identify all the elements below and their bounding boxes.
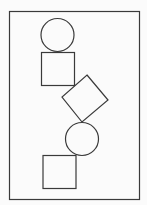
diagram-canvas: [0, 0, 147, 205]
